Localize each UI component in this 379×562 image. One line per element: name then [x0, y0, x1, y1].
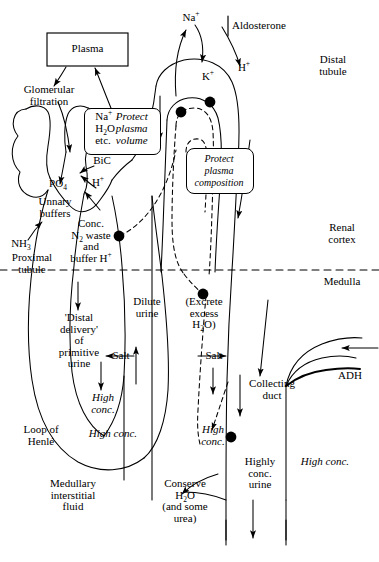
- lumen-dashed-left: [172, 126, 184, 274]
- protect-volume-line-2: plasma: [116, 122, 148, 134]
- arrow-medulla-flow-down: [260, 300, 268, 376]
- solute-h2o: H2O: [95, 122, 115, 134]
- loop-of-henle-label: Loop of Henlé: [12, 424, 70, 447]
- arrow-reabsorb-to-plasma: [95, 68, 113, 113]
- plasma-box-label: Plasma: [47, 43, 128, 55]
- highly-conc-urine-label: Highly conc. urine: [234, 456, 286, 491]
- high-conc-loop-label: High conc.: [80, 428, 146, 440]
- dilute-urine-label: Dilute urine: [125, 296, 169, 319]
- salt-right-label: Salt: [198, 350, 230, 362]
- protect-volume-line-3: volume: [116, 134, 148, 146]
- conc-n2-waste-label: Conc.N2 wasteandbuffer H+: [57, 218, 125, 264]
- high-conc-right-label: High conc.: [193, 424, 233, 447]
- dot-distal-transport-left: [176, 107, 187, 118]
- protect-volume-line-1: Protect: [116, 110, 148, 122]
- high-conc-inner-label: High conc.: [83, 392, 123, 415]
- h-plus-proximal-label: H+: [86, 177, 110, 189]
- po4-label: PO4: [42, 178, 74, 190]
- arrow-k-secretion-down: [195, 25, 203, 62]
- h-plus-distal-label: H+: [232, 62, 256, 74]
- medullary-interstitial-fluid-label: Medullary interstitial fluid: [38, 478, 108, 513]
- k-plus-label: K+: [196, 71, 220, 83]
- solute-etc: etc.: [95, 134, 115, 146]
- nh3-label: NH3: [4, 238, 38, 250]
- urinary-buffers-label: Unnary buffers: [24, 196, 86, 219]
- arrow-na-reabsorption: [175, 30, 186, 96]
- aldosterone-label: Aldosterone: [232, 20, 314, 32]
- glomerulus-left-lobe: [26, 106, 50, 178]
- excrete-excess-h2o-label: (ExcreteexcessH2O): [176, 296, 232, 331]
- distal-tubule-inner-left: [161, 120, 167, 272]
- arrow-h-lower: [85, 192, 100, 210]
- na-plus-top-label: Na+: [176, 12, 206, 24]
- renal-cortex-label: Renal cortex: [316, 222, 368, 245]
- bic-label: BiC: [87, 155, 117, 167]
- protect-volume-left-items: Na+ H2O etc.: [95, 110, 115, 146]
- collecting-duct-label: Collecting duct: [240, 378, 304, 401]
- glomerular-filtration-label: Glomerular filtration: [8, 84, 90, 107]
- protect-plasma-composition-label: Protect plasma composition: [187, 153, 251, 189]
- dot-distal-transport-right: [205, 97, 216, 108]
- distal-delivery-label: 'Distal delivery' of primitive urine: [46, 312, 112, 370]
- kidney-nephron-diagram: Plasma Glomerular filtration Na+ H2O etc…: [0, 0, 379, 562]
- medulla-label: Medulla: [314, 276, 370, 288]
- distal-tubule-label: Distal tubule: [304, 54, 362, 77]
- adh-label: ADH: [338, 370, 376, 382]
- arrow-glomerular-filtration: [58, 102, 70, 152]
- loop-of-henle-outer-right-wall: [144, 196, 169, 458]
- protect-volume-right-items: Protect plasma volume: [116, 110, 148, 146]
- salt-left-label: Salt: [105, 350, 137, 362]
- conserve-h2o-label: ConserveH2O(and someurea): [150, 478, 220, 524]
- high-conc-vasa-label: High conc.: [292, 456, 358, 468]
- proximal-tubule-label: Proximal tubule: [1, 252, 63, 275]
- solute-na: Na+: [95, 110, 115, 122]
